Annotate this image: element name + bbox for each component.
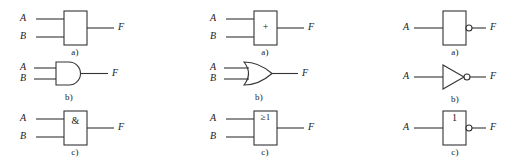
input-label-a: A [210,12,216,23]
caption-c: c) [250,147,280,157]
gate-not-b: A F b) [402,62,511,94]
input-label-b: B [210,130,216,141]
output-label-f: F [308,121,314,132]
input-label-a: A [210,112,216,123]
gate-body-and-shape [56,62,81,85]
output-label-f: F [302,67,308,78]
input-label-a: A [403,70,409,81]
input-label-b: B [210,72,216,83]
output-label-f: F [490,121,496,132]
caption-b: b) [54,92,84,102]
input-label-a: A [210,61,216,72]
input-label-b: B [20,130,26,141]
caption-a: a) [60,47,90,57]
caption-a: a) [440,47,470,57]
input-label-a: A [403,21,409,32]
gate-and-c-svg [14,108,154,148]
logic-gate-symbols-figure: A B F a) A B F b) & A [0,0,511,161]
gate-inner-label-and: & [64,115,87,126]
gate-inner-label-or: + [254,21,277,32]
gate-body-triangle [443,65,464,89]
inversion-bubble [466,125,472,131]
input-label-b: B [20,72,26,83]
gate-or-c: ≥1 A B F c) [204,108,344,148]
gate-body-or-shape [244,62,272,85]
gate-and-b: A B F b) [14,60,154,94]
gate-or-b-svg [204,60,344,94]
caption-b: b) [440,94,470,104]
output-label-f: F [118,121,124,132]
inversion-bubble [464,74,470,80]
gate-and-a: A B F a) [14,8,154,48]
inversion-bubble [466,25,472,31]
caption-b: b) [244,92,274,102]
caption-c: c) [440,147,470,157]
output-label-f: F [490,70,496,81]
gate-not-c: 1 A F c) [402,108,511,148]
gate-and-b-svg [14,60,154,94]
gate-body [443,11,466,45]
gate-and-a-svg [14,8,154,48]
gate-or-b: A B F b) [204,60,344,94]
gate-inner-label-one: 1 [443,112,466,123]
output-label-f: F [490,21,496,32]
gate-not-a: A F a) [402,8,511,48]
caption-c: c) [60,147,90,157]
output-label-f: F [112,67,118,78]
input-label-a: A [20,112,26,123]
input-label-a: A [20,61,26,72]
input-label-a: A [403,121,409,132]
input-label-a: A [20,12,26,23]
input-label-b: B [20,30,26,41]
gate-or-a: + A B F a) [204,8,344,48]
output-label-f: F [308,21,314,32]
gate-body [64,11,87,45]
input-label-b: B [210,30,216,41]
output-label-f: F [118,21,124,32]
gate-and-c: & A B F c) [14,108,154,148]
caption-a: a) [250,47,280,57]
gate-inner-label-geq1: ≥1 [254,112,277,122]
